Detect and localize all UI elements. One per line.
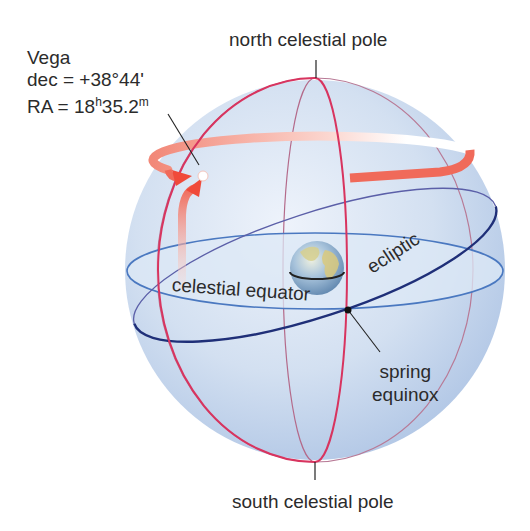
north-celestial-pole-label: north celestial pole <box>229 29 387 51</box>
vega-name: Vega <box>27 47 149 69</box>
ra-minutes-unit: m <box>139 95 149 109</box>
south-celestial-pole-label: south celestial pole <box>232 491 394 513</box>
celestial-sphere-diagram: Vega dec = +38°44' RA = 18h35.2m north c… <box>0 0 530 531</box>
vega-star <box>198 171 208 181</box>
vega-label: Vega dec = +38°44' RA = 18h35.2m <box>27 47 149 118</box>
ra-hours-unit: h <box>95 95 102 109</box>
spring-label-line1: spring <box>372 360 439 383</box>
ra-prefix: RA = 18 <box>27 96 95 117</box>
vega-dec: dec = +38°44' <box>27 69 149 91</box>
spring-label-line2: equinox <box>372 383 439 406</box>
ra-minutes: 35.2 <box>102 96 139 117</box>
vega-ra: RA = 18h35.2m <box>27 91 149 118</box>
spring-equinox-label: spring equinox <box>372 360 439 406</box>
spring-equinox-point <box>345 307 352 314</box>
